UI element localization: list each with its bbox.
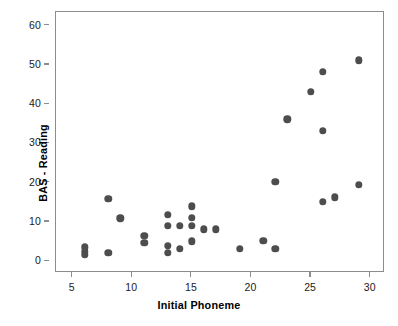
- x-tick-label: 15: [185, 281, 197, 293]
- data-point: [355, 57, 362, 64]
- x-tick-label: 5: [69, 281, 75, 293]
- y-tick-label: 0: [35, 254, 41, 266]
- data-point: [355, 181, 362, 188]
- data-points-layer: [56, 12, 383, 271]
- data-point: [105, 249, 112, 256]
- x-axis-title: Initial Phoneme: [0, 299, 398, 311]
- data-point: [188, 222, 195, 229]
- data-point: [117, 215, 124, 222]
- y-axis-title: BAS - Reading: [37, 124, 49, 202]
- data-point: [200, 226, 207, 233]
- data-point: [319, 198, 326, 205]
- data-point: [81, 251, 88, 258]
- x-tick-mark: [250, 272, 251, 277]
- y-tick-mark: [44, 24, 49, 25]
- data-point: [188, 203, 195, 210]
- x-tick-mark: [190, 272, 191, 277]
- data-point: [272, 245, 279, 252]
- y-tick-mark: [44, 103, 49, 104]
- y-tick-mark: [44, 220, 49, 221]
- data-point: [188, 214, 195, 221]
- data-point: [331, 194, 338, 201]
- plot-area: [55, 11, 384, 272]
- y-tick-mark: [44, 260, 49, 261]
- data-point: [236, 245, 243, 252]
- data-point: [260, 237, 267, 244]
- x-tick-label: 10: [125, 281, 137, 293]
- x-tick-mark: [71, 272, 72, 277]
- x-tick-label: 25: [304, 281, 316, 293]
- data-point: [164, 211, 171, 218]
- data-point: [164, 222, 171, 229]
- data-point: [319, 127, 326, 134]
- x-tick-mark: [309, 272, 310, 277]
- data-point: [307, 88, 314, 95]
- data-point: [272, 178, 279, 185]
- data-point: [176, 245, 183, 252]
- y-tick-mark: [44, 63, 49, 64]
- scatter-plot-figure: 0102030405060 51015202530 BAS - Reading …: [0, 0, 398, 326]
- data-point: [164, 249, 171, 256]
- y-tick-label: 60: [29, 19, 41, 31]
- x-tick-label: 20: [245, 281, 257, 293]
- data-point: [105, 195, 112, 202]
- x-tick-mark: [369, 272, 370, 277]
- data-point: [176, 222, 183, 229]
- data-point: [319, 68, 326, 75]
- y-tick-label: 50: [29, 58, 41, 70]
- y-tick-label: 10: [29, 215, 41, 227]
- data-point: [188, 238, 195, 245]
- x-tick-mark: [131, 272, 132, 277]
- data-point: [212, 226, 219, 233]
- data-point: [284, 115, 291, 122]
- data-point: [141, 239, 148, 246]
- y-tick-label: 40: [29, 97, 41, 109]
- x-tick-label: 30: [364, 281, 376, 293]
